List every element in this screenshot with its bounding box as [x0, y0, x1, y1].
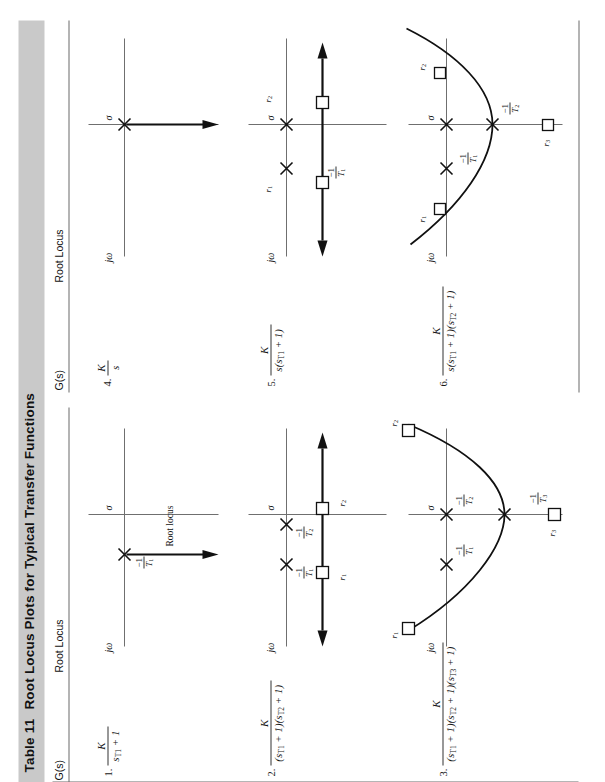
- plot-2-tick-T2: −1T2: [294, 526, 313, 538]
- plot-1-tick-T1: −1T1: [134, 556, 153, 568]
- table-title-text: Root Locus Plots for Typical Transfer Fu…: [21, 392, 36, 709]
- table-number: Table 11: [21, 718, 36, 772]
- plot-6: jω σ −1T1 −1T2 r1 r2 r3: [400, 24, 575, 274]
- plot-2-svg: [240, 414, 400, 664]
- plot-6-branch-r1: r1: [416, 215, 427, 222]
- plot-6-tick-T1: −1T1: [458, 152, 477, 164]
- plot-3-sigma-label: σ: [424, 505, 435, 510]
- plot-1-svg: [78, 414, 228, 664]
- col-header-rootlocus-right: Root Locus: [52, 229, 64, 282]
- plot-5-sigma-label: σ: [264, 115, 275, 120]
- plot-2-tick-T1: −1T1: [294, 566, 313, 578]
- plot-5-branch-r2: r2: [262, 95, 273, 102]
- plot-6-tick-T2: −1T2: [500, 102, 519, 114]
- plot-2-branch-r2: r2: [336, 499, 347, 506]
- plot-3-branch-r1: r1: [388, 631, 399, 638]
- rule-header-left: [68, 407, 69, 782]
- formula-4: 4.Ks: [95, 360, 120, 386]
- formula-2: 2.K(sT1 + 1)(sT2 + 1): [258, 680, 285, 776]
- formula-1: 1.KsT1 + 1: [95, 726, 122, 776]
- plot-3-branch-r2: r2: [388, 419, 399, 426]
- plot-3-jw-label: jω: [424, 642, 435, 652]
- plot-3-branch-r3: r3: [546, 529, 557, 536]
- plot-4-sigma-label: σ: [102, 115, 113, 120]
- plot-2-jw-label: jω: [264, 642, 275, 652]
- plot-1: jω σ −1T1 Root locus: [78, 414, 228, 664]
- page-canvas: Table 11Root Locus Plots for Typical Tra…: [0, 0, 605, 782]
- plot-5: jω σ −1T1 r1 r2: [240, 24, 400, 274]
- plot-6-svg: [400, 24, 575, 274]
- plot-2-sigma-label: σ: [264, 505, 275, 510]
- plot-3: jω σ −1T1 −1T2 −1T3 r1 r2 r3: [400, 414, 575, 664]
- plot-4-svg: [78, 24, 228, 274]
- plot-6-jw-label: jω: [424, 252, 435, 262]
- plot-6-branch-r2: r2: [416, 63, 427, 70]
- plot-1-root-locus-note: Root locus: [164, 505, 174, 546]
- plot-6-sigma-label: σ: [424, 115, 435, 120]
- col-header-gs-left: G(s): [52, 760, 64, 780]
- formula-5: 5.Ks(sT1 + 1): [258, 325, 285, 387]
- rule-bottom-right: [578, 20, 579, 392]
- col-header-rootlocus-left: Root Locus: [52, 619, 64, 672]
- plot-5-branch-r1: r1: [262, 185, 273, 192]
- col-header-gs-right: G(s): [52, 370, 64, 390]
- plot-3-tick-T1: −1T1: [454, 544, 473, 556]
- plot-5-jw-label: jω: [264, 252, 275, 262]
- plot-4: jω σ: [78, 24, 228, 274]
- plot-5-svg: [240, 24, 400, 274]
- rotated-table-wrapper: Table 11Root Locus Plots for Typical Tra…: [0, 0, 605, 782]
- plot-3-tick-T2: −1T2: [454, 494, 473, 506]
- formula-6: 6.Ks(sT1 + 1)(sT2 + 1): [430, 286, 457, 386]
- table-title: Table 11Root Locus Plots for Typical Tra…: [21, 392, 36, 772]
- plot-5-tick-T1: −1T1: [326, 166, 345, 178]
- plot-6-branch-r3: r3: [540, 139, 551, 146]
- plot-1-sigma-label: σ: [102, 505, 113, 510]
- plot-4-jw-label: jω: [102, 252, 113, 262]
- root-locus-table: Table 11Root Locus Plots for Typical Tra…: [0, 0, 605, 782]
- plot-3-tick-T3: −1T3: [528, 492, 547, 504]
- rule-header-right: [68, 20, 69, 392]
- plot-2-branch-r1: r1: [336, 573, 347, 580]
- plot-2: jω σ −1T1 −1T2 r1 r2: [240, 414, 400, 664]
- plot-3-svg: [400, 414, 575, 664]
- plot-1-jw-label: jω: [102, 642, 113, 652]
